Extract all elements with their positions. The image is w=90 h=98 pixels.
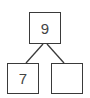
whole-value: 9: [41, 20, 49, 37]
part-box-right-blank[interactable]: [51, 63, 83, 94]
connector-right: [47, 44, 64, 63]
part-box-left: 7: [7, 63, 39, 94]
part-value-left: 7: [19, 70, 27, 87]
connector-left: [26, 44, 43, 63]
whole-box: 9: [29, 12, 61, 44]
